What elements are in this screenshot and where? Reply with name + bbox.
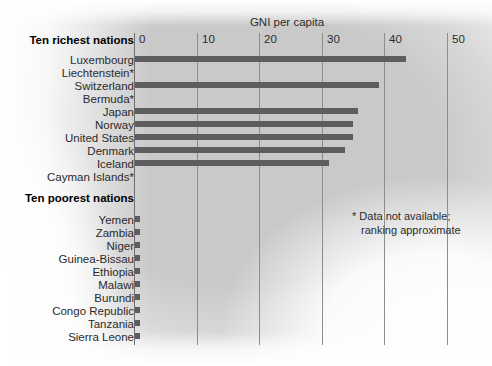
- row-label-niger: Niger: [107, 241, 134, 252]
- section-heading-richest: Ten richest nations: [29, 35, 134, 46]
- row-label-malawi: Malawi: [98, 280, 134, 291]
- bar-ethiopia: [135, 268, 140, 274]
- bar-united-states: [135, 134, 353, 140]
- footnote-line-1: * Data not available;: [352, 210, 450, 222]
- gridline-10: [197, 33, 198, 345]
- gni-per-capita-chart: GNI per capita 0 10 20 30 40 50 Ten rich…: [0, 0, 492, 366]
- chart-title: GNI per capita: [222, 16, 352, 28]
- row-label-yemen: Yemen: [99, 215, 134, 226]
- bar-denmark: [135, 147, 345, 153]
- row-label-tanzania: Tanzania: [88, 319, 134, 330]
- bar-yemen: [135, 216, 140, 222]
- row-label-norway: Norway: [95, 120, 134, 131]
- bar-switzerland: [135, 82, 379, 88]
- bar-sierra-leone: [135, 333, 140, 339]
- row-label-iceland: Iceland: [97, 159, 134, 170]
- bar-niger: [135, 242, 140, 248]
- row-label-congo-republic: Congo Republic: [52, 306, 134, 317]
- row-label-switzerland: Switzerland: [75, 81, 134, 92]
- row-label-luxembourg: Luxembourg: [70, 55, 134, 66]
- xtick-label-50: 50: [452, 33, 465, 45]
- footnote: * Data not available; ranking approximat…: [352, 209, 484, 237]
- row-label-united-states: United States: [65, 133, 134, 144]
- xtick-label-30: 30: [327, 33, 340, 45]
- row-label-liechtenstein: Liechtenstein*: [62, 68, 134, 79]
- bar-japan: [135, 108, 358, 114]
- bar-luxembourg: [135, 56, 406, 62]
- row-label-burundi: Burundi: [94, 293, 134, 304]
- bar-congo-republic: [135, 307, 140, 313]
- row-label-bermuda: Bermuda*: [83, 94, 134, 105]
- row-label-zambia: Zambia: [96, 228, 134, 239]
- bar-zambia: [135, 229, 140, 235]
- bar-guinea-bissau: [135, 255, 140, 261]
- bar-burundi: [135, 294, 140, 300]
- gridline-50: [447, 33, 448, 345]
- row-label-ethiopia: Ethiopia: [92, 267, 134, 278]
- bar-tanzania: [135, 320, 140, 326]
- xtick-label-10: 10: [202, 33, 215, 45]
- gridline-20: [259, 33, 260, 345]
- row-label-denmark: Denmark: [87, 146, 134, 157]
- bar-malawi: [135, 281, 140, 287]
- bar-iceland: [135, 160, 329, 166]
- section-heading-poorest: Ten poorest nations: [25, 193, 134, 204]
- bar-norway: [135, 121, 353, 127]
- footnote-line-2: ranking approximate: [352, 223, 484, 237]
- xtick-label-20: 20: [264, 33, 277, 45]
- row-label-cayman-islands: Cayman Islands*: [47, 172, 134, 183]
- xtick-label-0: 0: [139, 33, 145, 45]
- gridline-30: [322, 33, 323, 345]
- gridline-40: [384, 33, 385, 345]
- row-label-sierra-leone: Sierra Leone: [68, 332, 134, 343]
- row-label-guinea-bissau: Guinea-Bissau: [59, 254, 134, 265]
- xtick-label-40: 40: [389, 33, 402, 45]
- row-label-japan: Japan: [103, 107, 134, 118]
